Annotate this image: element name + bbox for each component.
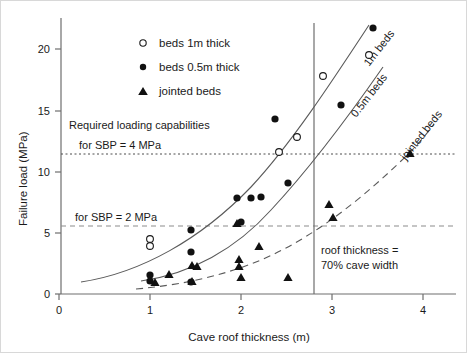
data-point-filled-circle [187, 226, 194, 233]
chart-figure: 0 5 10 15 20 0 1 2 3 4 Cave roof thickne… [0, 0, 467, 353]
legend-label-jointed-beds: jointed beds [158, 85, 221, 97]
roof-thickness-note-line1: roof thickness = [321, 244, 398, 256]
data-point-filled-circle [247, 194, 254, 201]
y-axis: 0 5 10 15 20 [38, 18, 61, 300]
legend-label-beds-05m: beds 0.5m thick [159, 61, 240, 73]
data-point-triangle [283, 273, 292, 281]
y-tick-label-0: 0 [44, 288, 50, 300]
x-tick-label-2: 2 [238, 304, 244, 316]
y-tick-label-5: 5 [44, 227, 50, 239]
legend-label-beds-1m: beds 1m thick [159, 37, 230, 49]
y-tick-label-15: 15 [38, 105, 50, 117]
data-point-open-circle [147, 243, 154, 250]
legend-marker-open-circle [140, 40, 146, 46]
chart-legend: beds 1m thick beds 0.5m thick jointed be… [138, 37, 240, 97]
data-point-open-circle [320, 73, 327, 80]
series-beds-1m-thick [147, 52, 373, 250]
data-point-filled-circle [369, 24, 376, 31]
data-point-triangle [234, 262, 243, 270]
curve-label-1m-beds: 1m beds [361, 27, 397, 68]
chart-canvas: 0 5 10 15 20 0 1 2 3 4 Cave roof thickne… [1, 1, 467, 353]
x-axis-title: Cave roof thickness (m) [188, 331, 310, 343]
y-axis-title: Failure load (MPa) [17, 131, 29, 226]
x-tick-label-3: 3 [329, 304, 335, 316]
required-loading-header: Required loading capabilities [69, 119, 210, 131]
y-tick-label-10: 10 [38, 166, 50, 178]
data-point-triangle [236, 273, 245, 281]
sbp4-label: for SBP = 4 MPa [79, 139, 162, 151]
data-point-triangle [234, 255, 243, 263]
x-axis: 0 1 2 3 4 [56, 294, 456, 316]
data-point-filled-circle [257, 193, 264, 200]
data-point-filled-circle [233, 194, 240, 201]
y-tick-label-20: 20 [38, 43, 50, 55]
data-point-filled-circle [284, 179, 291, 186]
data-point-open-circle [276, 149, 283, 156]
roof-thickness-note-line2: 70% cave width [321, 259, 398, 271]
legend-marker-triangle [138, 87, 148, 95]
data-point-triangle [324, 200, 333, 208]
sbp2-label: for SBP = 2 MPa [75, 211, 158, 223]
data-point-filled-circle [271, 115, 278, 122]
data-point-open-circle [147, 236, 154, 243]
x-tick-label-0: 0 [56, 304, 62, 316]
data-point-filled-circle [337, 101, 344, 108]
data-point-filled-circle [187, 248, 194, 255]
data-point-open-circle [366, 52, 373, 59]
data-point-triangle [328, 213, 337, 221]
data-point-triangle [254, 242, 263, 250]
curve-label-05m-beds: 0.5m beds [348, 71, 389, 119]
data-point-open-circle [294, 134, 301, 141]
curve-label-jointed-beds: jointed beds [398, 108, 445, 163]
x-tick-label-1: 1 [147, 304, 153, 316]
legend-marker-filled-circle [140, 64, 146, 70]
x-tick-label-4: 4 [420, 304, 426, 316]
